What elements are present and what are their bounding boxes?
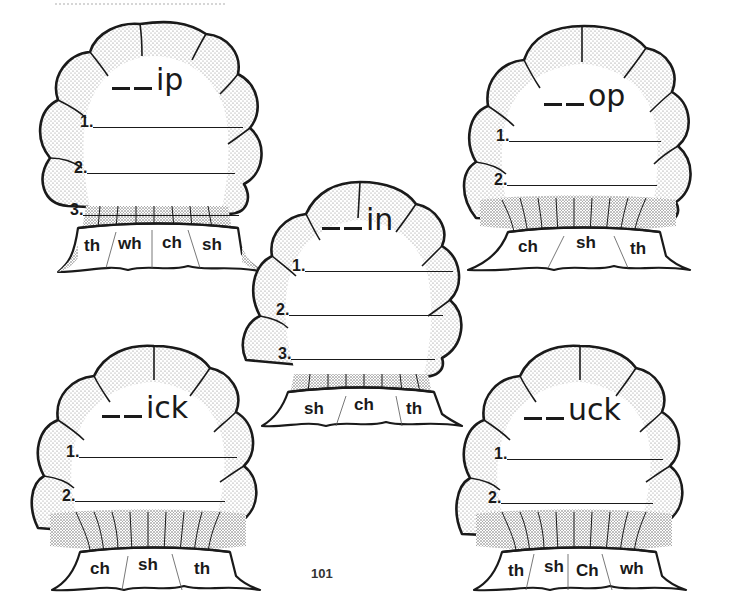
digraph-choice[interactable]: sh — [576, 234, 596, 252]
shell-ip: ip 1. 2. 3. th wh ch sh — [28, 18, 258, 273]
answer-line-2[interactable]: 2. — [488, 490, 653, 506]
digraph-choice[interactable]: sh — [544, 558, 564, 576]
blank-1 — [544, 103, 562, 106]
digraph-choice[interactable]: ch — [162, 234, 182, 252]
answer-line-1[interactable]: 1. — [496, 128, 661, 144]
answer-line-2[interactable]: 2. — [74, 160, 235, 176]
answer-line-3[interactable]: 3. — [278, 346, 435, 362]
shell-op: op 1. 2. ch sh th — [454, 22, 704, 272]
scallop-shell-icon — [28, 18, 258, 273]
word-ending-title: op — [544, 78, 625, 113]
worksheet-page: ip 1. 2. 3. th wh ch sh — [0, 0, 731, 614]
page-number: 101 — [311, 566, 333, 581]
answer-line-1[interactable]: 1. — [80, 114, 243, 130]
word-ending-title: ick — [102, 390, 188, 425]
cropped-heading-remnant — [55, 0, 225, 5]
word-ending-title: in — [322, 202, 393, 237]
digraph-choice[interactable]: th — [194, 560, 210, 578]
blank-1 — [102, 415, 120, 418]
blank-2 — [124, 415, 142, 418]
shell-uck: uck 1. 2. th sh Ch wh — [450, 342, 700, 592]
blank-1 — [322, 227, 340, 230]
digraph-choice[interactable]: sh — [138, 556, 158, 574]
blank-2 — [546, 417, 564, 420]
digraph-choice[interactable]: ch — [90, 560, 110, 578]
digraph-choice[interactable]: ch — [354, 396, 374, 414]
digraph-choice[interactable]: ch — [518, 238, 538, 256]
blank-2 — [566, 103, 584, 106]
word-ending-title: uck — [524, 392, 621, 427]
scallop-shell-icon — [450, 342, 700, 592]
digraph-choice[interactable]: th — [84, 237, 100, 255]
digraph-choice[interactable]: th — [630, 240, 646, 258]
digraph-choice[interactable]: wh — [118, 235, 142, 253]
answer-line-1[interactable]: 1. — [66, 444, 237, 460]
digraph-choice[interactable]: sh — [202, 236, 222, 254]
answer-line-1[interactable]: 1. — [292, 258, 453, 274]
answer-line-1[interactable]: 1. — [494, 446, 663, 462]
blank-2 — [134, 87, 152, 90]
answer-line-2[interactable]: 2. — [494, 172, 657, 188]
digraph-choice[interactable]: th — [508, 562, 524, 580]
digraph-choice[interactable]: th — [406, 400, 422, 418]
digraph-choice[interactable]: sh — [304, 400, 324, 418]
blank-1 — [112, 87, 130, 90]
answer-line-2[interactable]: 2. — [62, 488, 225, 504]
answer-line-3[interactable]: 3. — [70, 202, 239, 218]
shell-ick: ick 1. 2. ch sh th — [24, 342, 274, 592]
answer-line-2[interactable]: 2. — [276, 302, 443, 318]
blank-2 — [344, 227, 362, 230]
digraph-choice[interactable]: wh — [620, 560, 644, 578]
blank-1 — [524, 417, 542, 420]
digraph-choice[interactable]: Ch — [576, 562, 599, 580]
word-ending-title: ip — [112, 62, 183, 97]
